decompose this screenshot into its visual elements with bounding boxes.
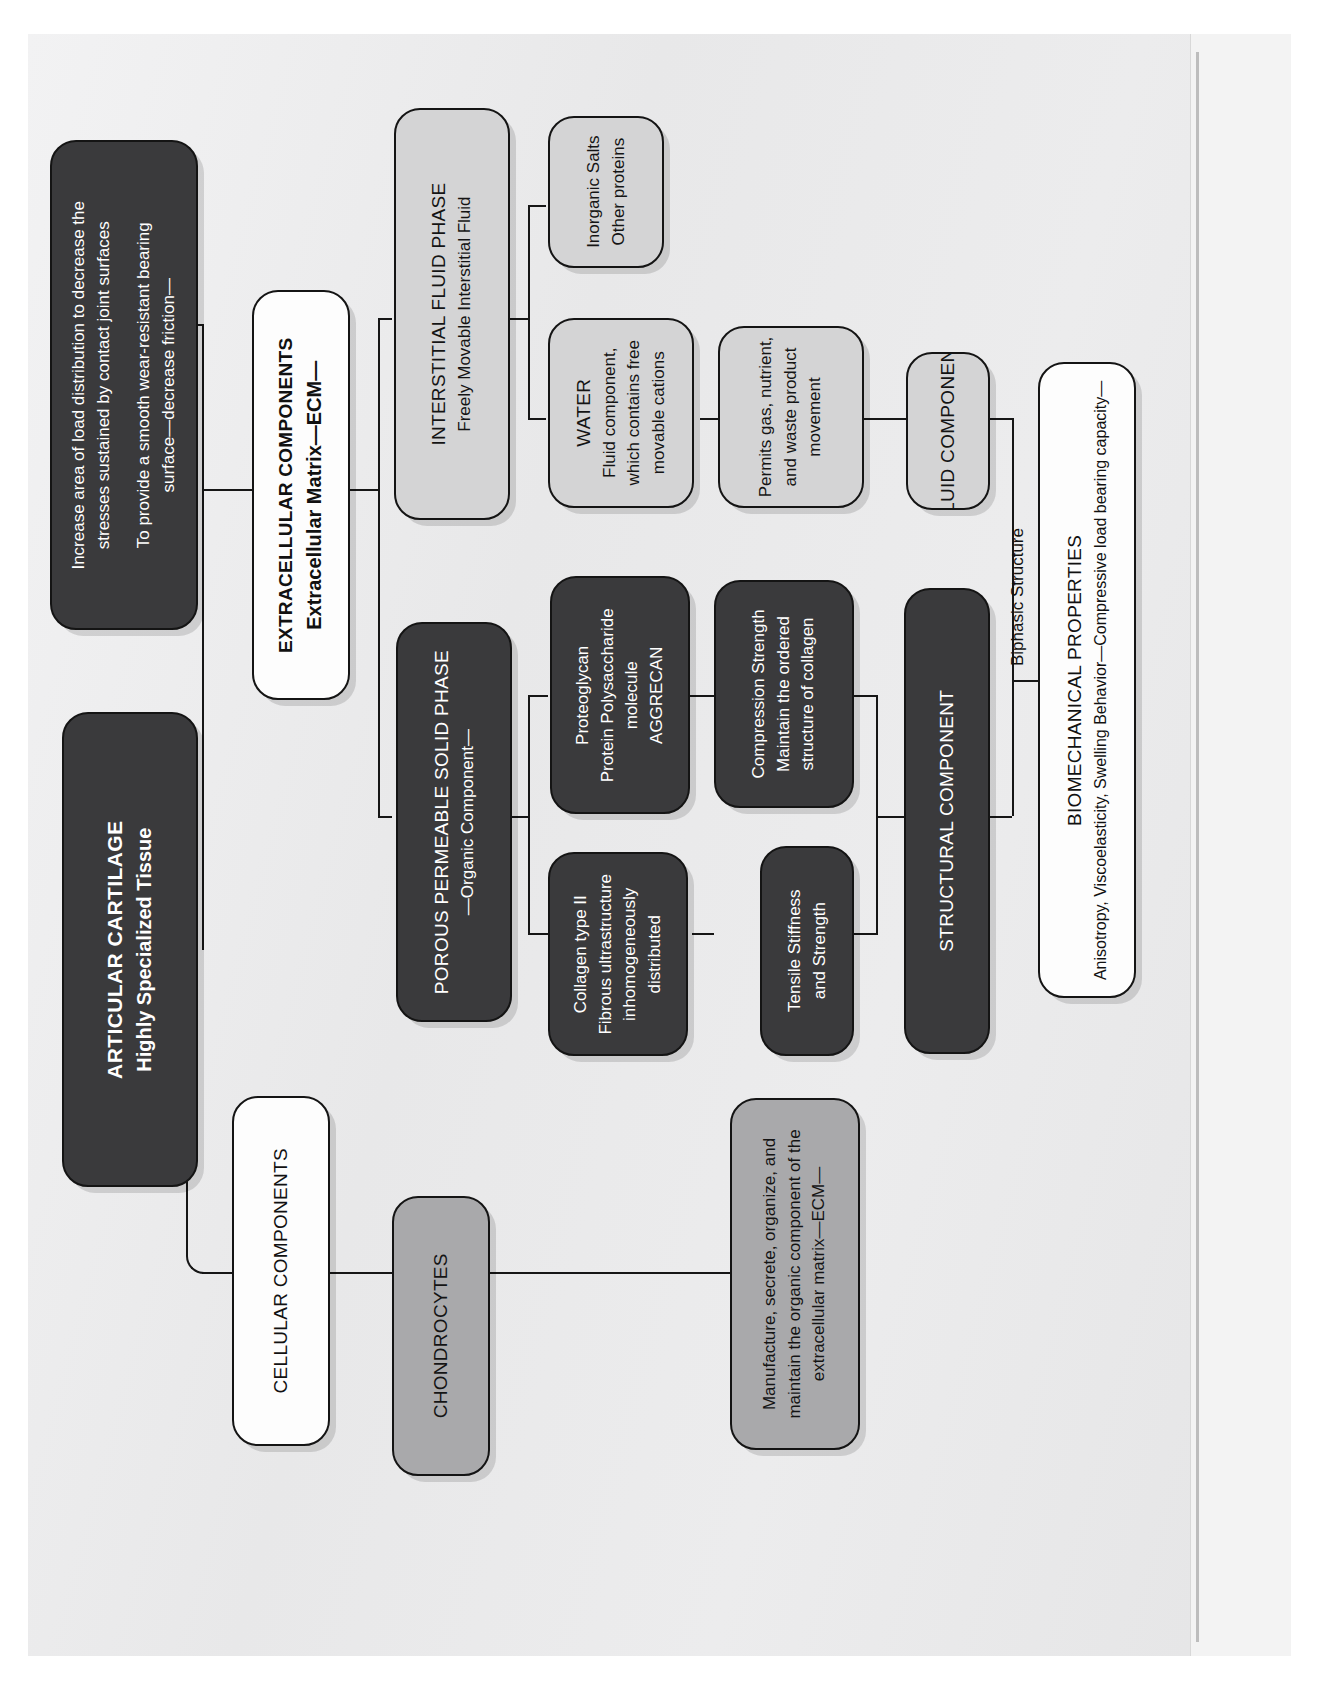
node-structural-component[interactable]: STRUCTURAL COMPONENT	[904, 588, 990, 1054]
node-permits-movement-text: Permits gas, nutrient, and waste product…	[754, 337, 828, 498]
connector-ecm-out	[350, 489, 380, 491]
node-chondrocyte-function[interactable]: Manufacture, secrete, organize, and main…	[730, 1098, 860, 1450]
connector-water-to-permits	[700, 418, 720, 420]
node-inorganic-salts[interactable]: Inorganic Salts Other proteins	[548, 116, 664, 268]
connector-interstitial-to-salts	[528, 205, 546, 207]
connector-compression-out	[854, 695, 878, 697]
connector-solid-to-collagen	[528, 933, 548, 935]
node-extracellular-components-text: EXTRACELLULAR COMPONENTS Extracellular M…	[273, 337, 330, 652]
node-inorganic-salts-text: Inorganic Salts Other proteins	[581, 136, 630, 248]
connector-chondrocytes-to-function	[490, 1272, 730, 1274]
node-articular-cartilage[interactable]: ARTICULAR CARTILAGE Highly Specialized T…	[62, 712, 198, 1187]
connector-proteoglycan-to-compression	[690, 695, 714, 697]
node-tensile-stiffness[interactable]: Tensile Stiffness and Strength	[760, 846, 854, 1056]
page-edge	[1190, 34, 1291, 1656]
connector-structural-collect	[876, 695, 878, 935]
node-functions-text: Increase area of load distribution to de…	[67, 201, 182, 570]
connector-fluid-out	[988, 418, 1012, 420]
node-chondrocyte-function-text: Manufacture, secrete, organize, and main…	[758, 1129, 832, 1418]
node-compression-strength[interactable]: Compression Strength Maintain the ordere…	[714, 580, 854, 808]
edge-label-biphasic: Biphasic Structure	[985, 515, 1045, 675]
connector-interstitial-to-water	[528, 418, 546, 420]
connector-structural-out	[988, 816, 1012, 818]
node-functions[interactable]: Increase area of load distribution to de…	[50, 140, 198, 630]
node-collagen-type-ii[interactable]: Collagen type II Fibrous ultrastructure …	[548, 852, 688, 1056]
connector-tensile-out	[854, 933, 878, 935]
node-permits-movement[interactable]: Permits gas, nutrient, and waste product…	[718, 326, 864, 508]
connector-collagen-to-tensile	[692, 933, 714, 935]
node-chondrocytes-text: CHONDROCYTES	[427, 1253, 455, 1418]
node-porous-permeable-solid-phase[interactable]: POROUS PERMEABLE SOLID PHASE —Organic Co…	[396, 622, 512, 1022]
node-proteoglycan[interactable]: Proteoglycan Protein Polysaccharide mole…	[550, 576, 690, 814]
node-interstitial-fluid-phase-text: INTERSTITIAL FLUID PHASE Freely Movable …	[426, 182, 478, 445]
connector-cellular-to-chondrocytes	[330, 1272, 392, 1274]
node-biomechanical-properties-text: BIOMECHANICAL PROPERTIES Anisotropy, Vis…	[1062, 380, 1113, 979]
node-fluid-component-text: FLUID COMPONENT	[934, 352, 962, 510]
node-collagen-type-ii-text: Collagen type II Fibrous ultrastructure …	[569, 874, 668, 1035]
connector-ecm-to-interstitial	[378, 318, 392, 320]
node-cellular-components[interactable]: CELLULAR COMPONENTS	[232, 1096, 330, 1446]
node-biomechanical-properties[interactable]: BIOMECHANICAL PROPERTIES Anisotropy, Vis…	[1038, 362, 1136, 998]
node-articular-cartilage-text: ARTICULAR CARTILAGE Highly Specialized T…	[100, 820, 159, 1078]
node-extracellular-components[interactable]: EXTRACELLULAR COMPONENTS Extracellular M…	[252, 290, 350, 700]
diagram-page: Biphasic Structure Increase area of load…	[0, 0, 1318, 1693]
connector-interstitial-spine	[528, 205, 530, 420]
connector-interstitial-out	[510, 318, 530, 320]
node-compression-strength-text: Compression Strength Maintain the ordere…	[747, 609, 821, 778]
node-porous-permeable-solid-phase-text: POROUS PERMEABLE SOLID PHASE —Organic Co…	[428, 650, 480, 994]
connector-to-biomechanical	[1012, 680, 1038, 682]
connector-solid-out	[512, 816, 530, 818]
connector-ecm-to-solid	[378, 816, 392, 818]
connector-to-structural	[876, 816, 904, 818]
node-water-text: WATER Fluid component, which contains fr…	[570, 340, 671, 486]
connector-ecm-spine	[378, 318, 380, 818]
node-water[interactable]: WATER Fluid component, which contains fr…	[548, 318, 694, 508]
node-structural-component-text: STRUCTURAL COMPONENT	[933, 690, 961, 952]
book-binding	[1196, 52, 1199, 1642]
node-cellular-components-text: CELLULAR COMPONENTS	[267, 1148, 295, 1393]
connector-solid-to-proteoglycan	[528, 695, 548, 697]
node-tensile-stiffness-text: Tensile Stiffness and Strength	[782, 890, 831, 1013]
node-chondrocytes[interactable]: CHONDROCYTES	[392, 1196, 490, 1476]
connector-solid-spine	[528, 695, 530, 935]
node-interstitial-fluid-phase[interactable]: INTERSTITIAL FLUID PHASE Freely Movable …	[394, 108, 510, 520]
connector-root-to-extracellular	[202, 489, 252, 491]
connector-root-spine	[202, 325, 204, 950]
connector-permits-to-fluid	[862, 418, 908, 420]
node-proteoglycan-text: Proteoglycan Protein Polysaccharide mole…	[571, 608, 670, 782]
node-fluid-component[interactable]: FLUID COMPONENT	[906, 352, 990, 510]
